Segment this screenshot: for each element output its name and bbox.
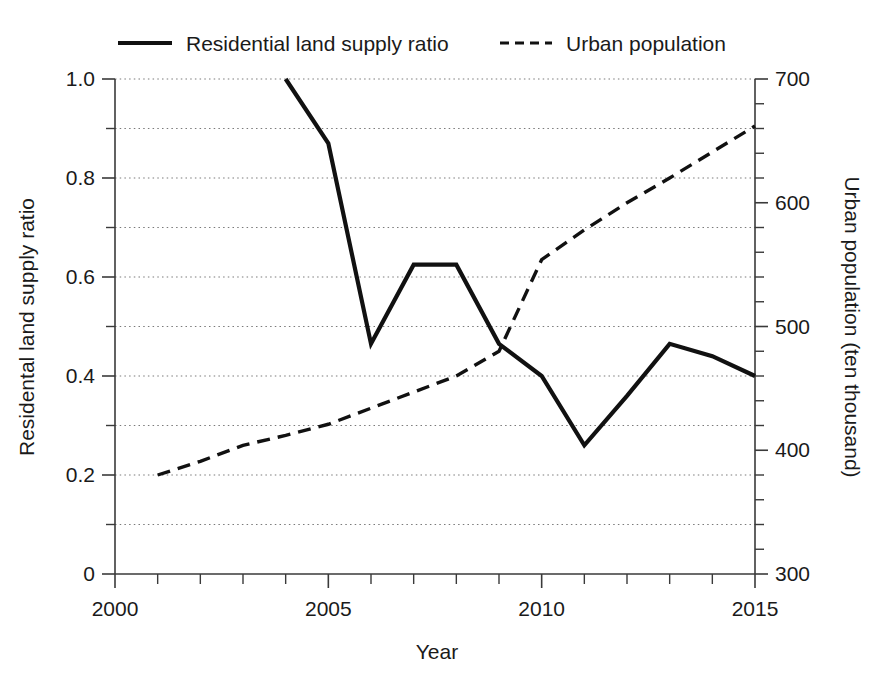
legend-label-urban-population: Urban population	[566, 32, 726, 55]
y-axis-left-tick-label: 0.8	[66, 166, 95, 189]
y-axis-left-tick-label: 0	[83, 562, 95, 585]
legend-label-residential-land-supply-ratio: Residential land supply ratio	[186, 32, 449, 55]
x-axis-tick-label: 2000	[92, 597, 139, 620]
x-axis-tick-label: 2010	[518, 597, 565, 620]
y-axis-left-tick-label: 1.0	[66, 67, 95, 90]
y-axis-right-tick-label: 400	[775, 438, 810, 461]
line-chart: Residential land supply ratio Urban popu…	[0, 0, 875, 679]
y-axis-right-tick-label: 600	[775, 191, 810, 214]
chart-container: Residential land supply ratio Urban popu…	[0, 0, 875, 679]
chart-legend: Residential land supply ratio Urban popu…	[118, 32, 726, 55]
x-axis-tick-label: 2005	[305, 597, 352, 620]
y-axis-right-title: Urban population (ten thousand)	[841, 176, 864, 477]
y-axis-right-tick-label: 700	[775, 67, 810, 90]
y-axis-right-tick-label: 300	[775, 562, 810, 585]
x-axis-title: Year	[416, 640, 458, 663]
y-axis-left-title: Residental land supply ratio	[15, 198, 38, 456]
y-axis-right-tick-label: 500	[775, 315, 810, 338]
y-axis-left-tick-label: 0.6	[66, 265, 95, 288]
x-axis-tick-label: 2015	[732, 597, 779, 620]
chart-background	[0, 0, 875, 679]
y-axis-left-tick-label: 0.2	[66, 463, 95, 486]
y-axis-left-tick-label: 0.4	[66, 364, 96, 387]
